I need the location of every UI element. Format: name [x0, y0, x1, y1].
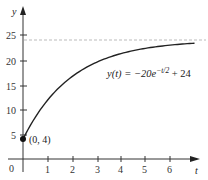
equation-rhs: + 24 [169, 68, 191, 79]
y-tick-20: 20 [6, 56, 16, 67]
initial-point-label: (0, 4) [29, 134, 51, 146]
y-tick-5: 5 [11, 130, 16, 141]
x-axis-arrow-icon [190, 156, 200, 162]
y-tick-25: 25 [6, 30, 16, 41]
initial-point-marker [20, 136, 26, 142]
x-tick-1: 1 [45, 164, 50, 175]
x-tick-6: 6 [167, 164, 172, 175]
equation-label: y(t) = −20e−t/2 + 24 [106, 66, 192, 80]
equation-exponent: −t/2 [156, 66, 169, 75]
y-tick-10: 10 [6, 105, 16, 116]
equation-lhs: y(t) = −20e [106, 68, 156, 80]
x-axis-label: t [195, 165, 198, 176]
y-tick-15: 15 [6, 81, 16, 92]
y-axis-arrow-icon [20, 6, 26, 15]
origin-label: 0 [9, 163, 14, 174]
x-tick-4: 4 [118, 164, 123, 175]
x-tick-2: 2 [70, 164, 75, 175]
chart: y t 0 25 20 15 10 5 1 2 3 4 5 6 (0, 4) y… [0, 0, 208, 180]
y-axis-label: y [11, 6, 17, 17]
curve-line [23, 43, 195, 139]
x-tick-3: 3 [95, 164, 100, 175]
x-tick-5: 5 [142, 164, 147, 175]
